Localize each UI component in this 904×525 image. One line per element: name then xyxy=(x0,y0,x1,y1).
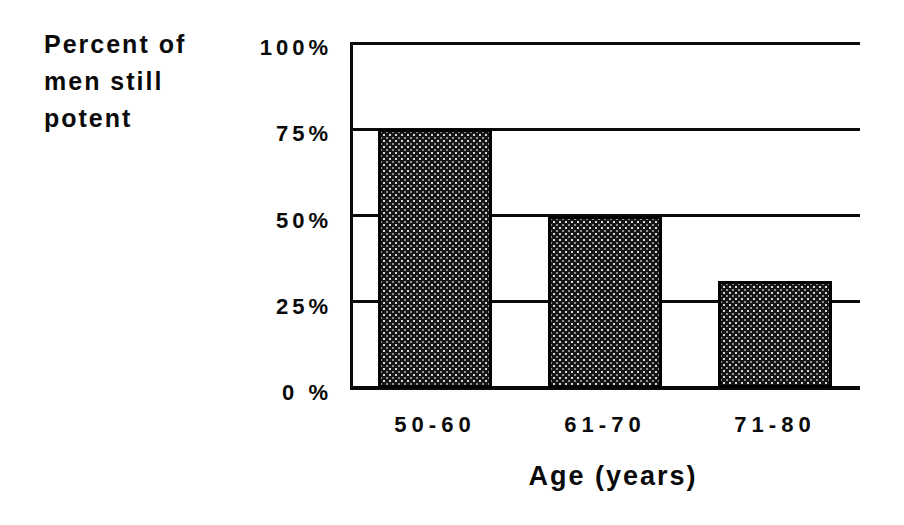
gridline-100 xyxy=(350,42,860,45)
x-tick-label-50-60: 50-60 xyxy=(350,412,520,438)
y-tick-label-0: 0 % xyxy=(200,380,332,406)
y-tick-label-50: 50% xyxy=(200,208,332,234)
x-axis-title: Age (years) xyxy=(463,461,763,492)
y-tick-label-25: 25% xyxy=(200,294,332,320)
bar-61-70 xyxy=(548,216,662,389)
y-tick-label-100: 100% xyxy=(200,35,332,61)
bar-71-80 xyxy=(718,281,832,388)
bar-50-60 xyxy=(378,129,492,388)
x-tick-label-71-80: 71-80 xyxy=(690,412,860,438)
y-axis-title-line-2: men still xyxy=(44,63,244,100)
bar-chart: Percent of men still potent 100% 75% 50%… xyxy=(0,0,904,525)
y-tick-label-75: 75% xyxy=(200,121,332,147)
y-axis-line xyxy=(350,42,353,390)
x-tick-label-61-70: 61-70 xyxy=(520,412,690,438)
